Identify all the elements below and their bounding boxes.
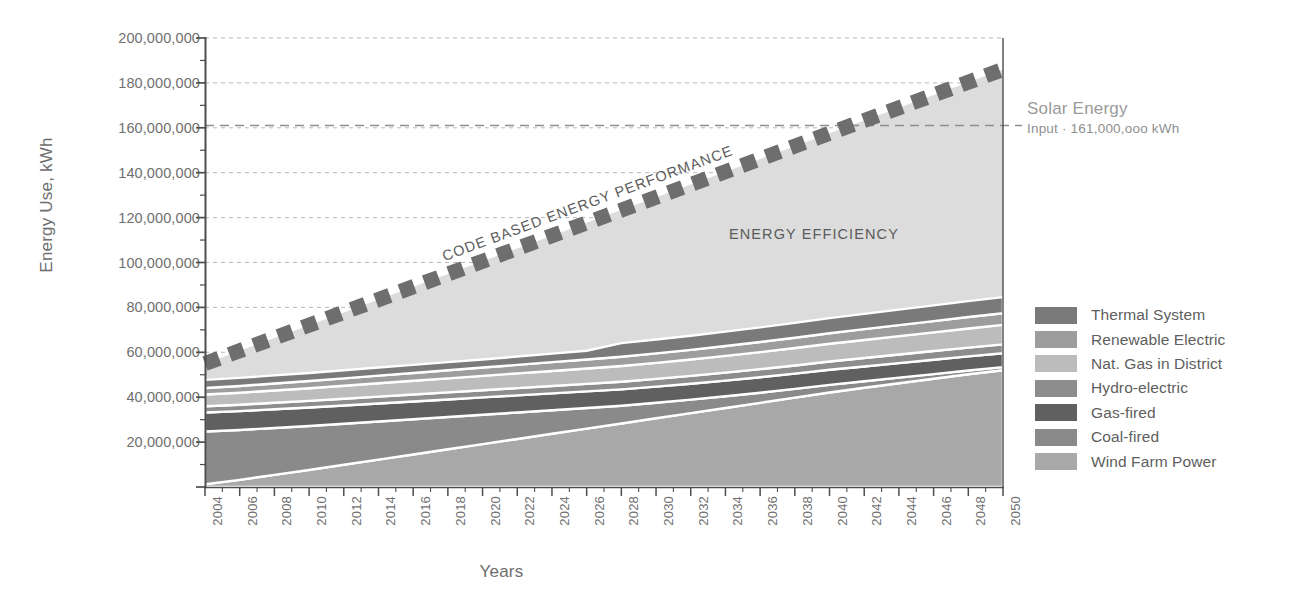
legend-label: Coal-fired: [1091, 428, 1159, 446]
y-axis-ticks: [196, 38, 205, 487]
legend-label: Gas-fired: [1091, 404, 1156, 422]
legend-item[interactable]: Wind Farm Power: [1035, 449, 1225, 473]
legend-item[interactable]: Nat. Gas in District: [1035, 352, 1225, 376]
legend-swatch: [1035, 380, 1077, 397]
legend-swatch: [1035, 355, 1077, 372]
energy-use-chart: Energy Use, kWh Years 200,000,000180,000…: [0, 0, 1292, 607]
legend-item[interactable]: Thermal System: [1035, 303, 1225, 327]
legend-label: Nat. Gas in District: [1091, 355, 1222, 373]
legend-label: Hydro-electric: [1091, 379, 1188, 397]
legend-label: Renewable Electric: [1091, 331, 1225, 349]
legend-item[interactable]: Hydro-electric: [1035, 376, 1225, 400]
legend-label: Wind Farm Power: [1091, 453, 1217, 471]
legend-swatch: [1035, 404, 1077, 421]
legend-item[interactable]: Coal-fired: [1035, 425, 1225, 449]
legend-swatch: [1035, 331, 1077, 348]
solar-energy-annotation: Solar Energy Input · 161,000,ooo kWh: [1027, 100, 1179, 136]
legend-swatch: [1035, 429, 1077, 446]
x-axis-ticks: [205, 487, 1003, 496]
legend-swatch: [1035, 307, 1077, 324]
solar-energy-title: Solar Energy: [1027, 100, 1179, 118]
legend-label: Thermal System: [1091, 306, 1205, 324]
legend-swatch: [1035, 453, 1077, 470]
chart-legend: Thermal SystemRenewable ElectricNat. Gas…: [1035, 303, 1225, 474]
legend-item[interactable]: Gas-fired: [1035, 401, 1225, 425]
solar-energy-subtitle: Input · 161,000,ooo kWh: [1027, 122, 1179, 136]
legend-item[interactable]: Renewable Electric: [1035, 327, 1225, 351]
